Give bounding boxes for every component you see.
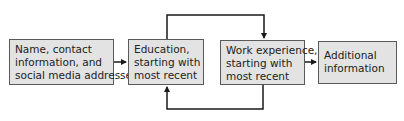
box-text-line: information, and: [15, 56, 108, 69]
arrow-work-to-education-bottom: [167, 85, 263, 109]
box-text-line: Name, contact: [15, 43, 108, 56]
box-text-line: most recent: [226, 70, 299, 83]
box-education: Education, starting with most recent: [128, 39, 204, 85]
box-text-line: starting with: [226, 57, 299, 70]
box-text-line: Additional: [324, 49, 391, 62]
box-text-line: Work experience,: [226, 44, 299, 57]
box-text-line: most recent: [134, 69, 198, 82]
box-text-line: starting with: [134, 56, 198, 69]
box-additional-info: Additional information: [318, 41, 397, 84]
box-text-line: social media addresses: [15, 69, 108, 82]
box-contact-info: Name, contact information, and social me…: [9, 39, 114, 85]
box-work-experience: Work experience, starting with most rece…: [220, 40, 305, 85]
box-text-line: information: [324, 62, 391, 75]
box-text-line: Education,: [134, 43, 198, 56]
arrow-education-to-work-top: [167, 15, 264, 39]
